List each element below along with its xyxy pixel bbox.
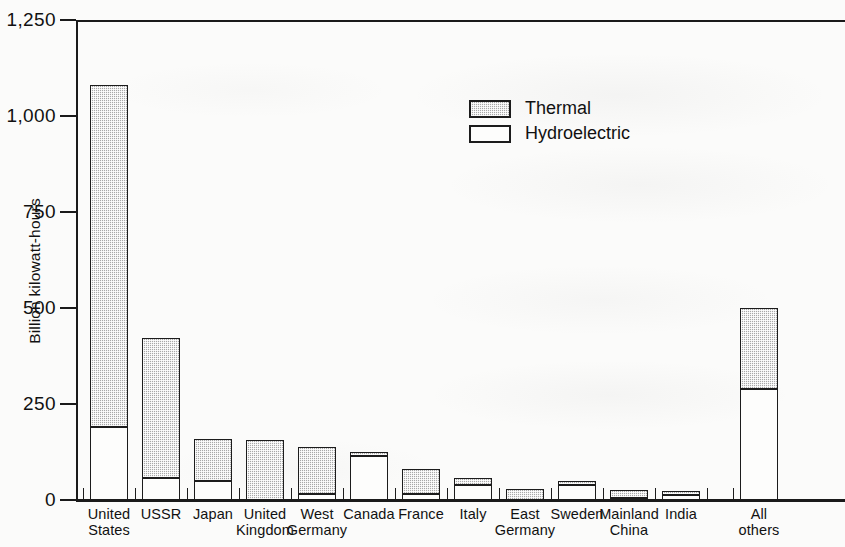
bar-segment-thermal <box>194 439 232 481</box>
bar <box>246 20 284 500</box>
x-axis-separator-tick <box>343 488 344 500</box>
bar-segment-hydroelectric <box>298 494 336 500</box>
x-axis-separator-tick <box>603 488 604 500</box>
y-axis-tick <box>60 19 76 21</box>
bar-segment-thermal <box>298 447 336 494</box>
bar <box>610 20 648 500</box>
x-axis-separator-tick <box>655 488 656 500</box>
bar-segment-thermal <box>558 481 596 485</box>
y-axis-tick <box>60 499 76 501</box>
x-axis-separator-tick <box>395 488 396 500</box>
bar <box>350 20 388 500</box>
x-axis-separator-tick <box>187 488 188 500</box>
y-axis-tick <box>60 211 76 213</box>
bar-segment-hydroelectric <box>142 478 180 500</box>
y-axis-tick <box>60 115 76 117</box>
bar-segment-thermal <box>662 491 700 495</box>
bar <box>740 20 778 500</box>
bar <box>402 20 440 500</box>
x-axis-separator-tick <box>83 488 84 500</box>
bar-segment-hydroelectric <box>610 498 648 500</box>
bar <box>142 20 180 500</box>
bar-segment-thermal <box>350 452 388 456</box>
bar-segment-hydroelectric <box>662 495 700 500</box>
bar-segment-thermal <box>142 338 180 478</box>
bar-chart: Billion kilowatt-hours 1,2501,0007505002… <box>0 0 845 547</box>
bar-segment-thermal <box>610 490 648 498</box>
bar-segment-thermal <box>402 469 440 494</box>
bar-segment-hydroelectric <box>350 456 388 500</box>
x-axis-separator-tick <box>733 488 734 500</box>
legend-swatch-hydro <box>469 125 511 143</box>
x-axis-tick-label: All others <box>707 507 811 538</box>
bar <box>298 20 336 500</box>
x-axis-separator-tick <box>447 488 448 500</box>
bar-segment-thermal <box>506 489 544 500</box>
bar <box>506 20 544 500</box>
y-axis-tick <box>60 403 76 405</box>
x-axis-separator-tick <box>707 488 708 500</box>
legend-label: Thermal <box>525 98 591 119</box>
x-axis-separator-tick <box>499 488 500 500</box>
x-axis-separator-tick <box>551 488 552 500</box>
bar-segment-hydroelectric <box>558 485 596 500</box>
x-axis-separator-tick <box>239 488 240 500</box>
legend-label: Hydroelectric <box>525 123 630 144</box>
bar-segment-hydroelectric <box>454 485 492 500</box>
bar-segment-hydroelectric <box>402 494 440 500</box>
legend-swatch-thermal <box>469 100 511 118</box>
bar-segment-hydroelectric <box>194 481 232 500</box>
bars-group <box>0 0 845 547</box>
bar-segment-thermal <box>90 85 128 427</box>
bar <box>662 20 700 500</box>
bar-segment-thermal <box>740 308 778 389</box>
x-axis-separator-tick <box>291 488 292 500</box>
x-axis-separator-tick <box>135 488 136 500</box>
y-axis-tick <box>60 307 76 309</box>
bar <box>90 20 128 500</box>
bar <box>194 20 232 500</box>
bar <box>454 20 492 500</box>
bar-segment-thermal <box>246 440 284 500</box>
bar-segment-hydroelectric <box>90 427 128 500</box>
bar <box>558 20 596 500</box>
bar-segment-thermal <box>454 478 492 486</box>
bar-segment-hydroelectric <box>740 389 778 500</box>
